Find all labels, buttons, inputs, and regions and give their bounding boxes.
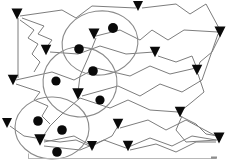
axis-tick-end	[211, 157, 217, 159]
arrowhead-triangle	[41, 45, 52, 55]
arrowhead-triangle	[72, 88, 84, 99]
edge-line	[198, 36, 220, 68]
arrowhead-triangle	[192, 65, 203, 75]
edge-line	[176, 116, 217, 142]
node-dot	[57, 125, 67, 135]
node-dot	[33, 116, 43, 126]
node-dot	[88, 66, 98, 76]
edge-line	[158, 56, 196, 66]
edge-line	[16, 84, 50, 124]
edge-line	[10, 126, 36, 138]
edge-line	[80, 98, 178, 112]
edge-line	[142, 4, 220, 30]
diagram-canvas	[0, 0, 233, 162]
node-dot	[52, 147, 62, 157]
edge-line	[20, 6, 136, 18]
arrowhead-triangle	[12, 9, 23, 20]
edge-line	[120, 120, 216, 136]
node-dot	[95, 95, 104, 104]
arrowhead-triangle	[133, 1, 143, 11]
arrowhead-triangle	[89, 29, 100, 40]
node-dot	[108, 23, 118, 33]
edge-line	[182, 74, 204, 110]
node-dot	[51, 76, 60, 85]
node-dot	[74, 44, 84, 54]
edge-line	[180, 116, 218, 136]
edge-line	[44, 126, 118, 146]
edge-line	[130, 142, 216, 152]
edge-line	[20, 20, 40, 72]
network-diagram	[0, 0, 233, 162]
